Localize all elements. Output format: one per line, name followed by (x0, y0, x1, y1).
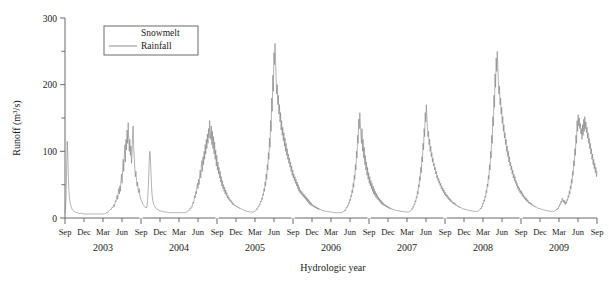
x-tick-label: Mar (552, 227, 566, 237)
x-tick-label: Sep (211, 227, 224, 237)
chart-background (0, 0, 609, 288)
x-tick-label: Sep (287, 227, 300, 237)
x-tick-label: Dec (305, 227, 319, 237)
x-tick-label: Mar (96, 227, 110, 237)
x-tick-label: Dec (229, 227, 243, 237)
x-tick-label: Sep (439, 227, 452, 237)
year-label: 2004 (169, 242, 189, 253)
x-tick-label: Jun (344, 227, 357, 237)
x-tick-label: Dec (77, 227, 91, 237)
x-tick-label: Jun (192, 227, 205, 237)
year-label: 2006 (321, 242, 341, 253)
x-axis-title: Hydrologic year (300, 262, 366, 273)
svg-text:Runoff (m3/s): Runoff (m3/s) (11, 100, 23, 155)
y-tick-label: 100 (43, 147, 58, 157)
x-axis-title-label: Hydrologic year (300, 262, 366, 273)
x-tick-label: Mar (400, 227, 414, 237)
x-tick-label: Jun (268, 227, 281, 237)
x-tick-label: Sep (591, 227, 604, 237)
x-tick-label: Mar (248, 227, 262, 237)
chart-legend: SnowmeltRainfall (104, 26, 198, 55)
y-axis-title-pre: Runoff (m (11, 114, 23, 156)
x-tick-label: Jun (116, 227, 129, 237)
hydrograph-figure: 0100200300 SepDecMarJunSepDecMarJunSepDe… (0, 0, 609, 288)
x-tick-label: Sep (135, 227, 148, 237)
x-tick-label: Sep (515, 227, 528, 237)
y-axis-title-post: /s) (11, 100, 23, 110)
x-tick-label: Jun (496, 227, 509, 237)
runoff-chart: 0100200300 SepDecMarJunSepDecMarJunSepDe… (0, 0, 609, 288)
x-tick-label: Dec (153, 227, 167, 237)
x-tick-label: Mar (476, 227, 490, 237)
x-tick-label: Mar (172, 227, 186, 237)
x-tick-label: Dec (381, 227, 395, 237)
x-tick-labels: SepDecMarJunSepDecMarJunSepDecMarJunSepD… (59, 227, 604, 237)
legend-entry-label: Rainfall (141, 41, 172, 51)
x-tick-label: Dec (533, 227, 547, 237)
y-tick-label: 300 (43, 14, 58, 24)
y-tick-label: 200 (43, 80, 58, 90)
year-label: 2003 (93, 242, 113, 253)
x-tick-label: Jun (420, 227, 433, 237)
x-tick-label: Jun (572, 227, 585, 237)
year-label: 2008 (473, 242, 493, 253)
y-axis-title: Runoff (m3/s) (11, 100, 23, 155)
x-tick-label: Dec (457, 227, 471, 237)
year-label: 2007 (397, 242, 417, 253)
year-label: 2009 (549, 242, 569, 253)
year-label: 2005 (245, 242, 265, 253)
legend-entry-label: Snowmelt (141, 28, 180, 38)
x-tick-label: Sep (59, 227, 72, 237)
y-tick-label: 0 (52, 214, 57, 224)
x-tick-label: Mar (324, 227, 338, 237)
x-tick-label: Sep (363, 227, 376, 237)
